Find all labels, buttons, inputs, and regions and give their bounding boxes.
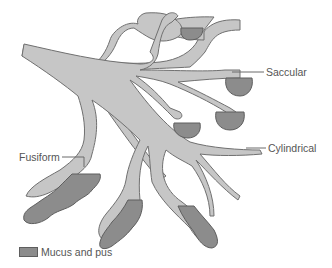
mucus-middle-bulb xyxy=(216,112,245,130)
bronchial-tree-diagram xyxy=(0,0,332,268)
label-fusiform: Fusiform xyxy=(19,151,60,163)
label-cylindrical: Cylindrical xyxy=(268,142,316,154)
label-saccular: Saccular xyxy=(266,66,307,78)
legend-label-mucus: Mucus and pus xyxy=(41,246,112,258)
legend: Mucus and pus xyxy=(19,246,112,258)
legend-swatch-mucus xyxy=(19,247,38,257)
mucus-saccular xyxy=(226,78,253,96)
